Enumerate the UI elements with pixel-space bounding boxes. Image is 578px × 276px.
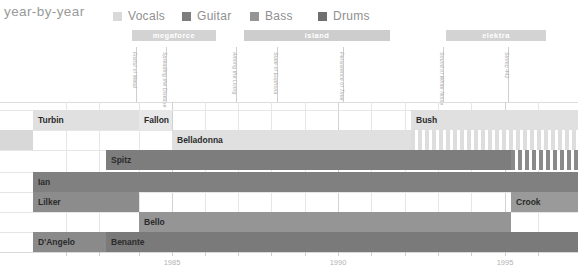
album-label: Fistful of Metal xyxy=(128,52,138,98)
band-member-name: Crook xyxy=(516,197,541,207)
axis-tick xyxy=(271,252,272,256)
band-member-name: Belladonna xyxy=(177,135,223,145)
axis-tick xyxy=(505,252,506,256)
album-title: State of Euphoria xyxy=(273,52,279,98)
axis-tick xyxy=(66,252,67,256)
timeline-bar[interactable]: Bello xyxy=(139,212,511,232)
axis-tick xyxy=(371,252,372,256)
legend-label-bass: Bass xyxy=(265,9,293,23)
album-label: State of Euphoria xyxy=(269,52,279,98)
band-member-name: Bello xyxy=(144,217,165,227)
timeline-bar[interactable]: Bush xyxy=(411,110,578,130)
axis-tick xyxy=(205,252,206,256)
timeline-bar[interactable]: Benante xyxy=(106,232,578,252)
legend-swatch-vocals xyxy=(113,12,122,21)
album-title: Sound of White Noise xyxy=(439,52,445,98)
record-label-name: elektra xyxy=(482,31,510,40)
album-title: Among the Living xyxy=(232,52,238,98)
album-label: Persistence of Time xyxy=(335,52,345,98)
album-label: Spreading the Disease xyxy=(158,52,168,98)
axis-tick xyxy=(405,252,406,256)
legend-item-guitar[interactable]: Guitar xyxy=(182,6,231,20)
album-title: Persistence of Time xyxy=(339,52,345,98)
axis-year-label: 1990 xyxy=(318,258,358,267)
album-title: Spreading the Disease xyxy=(162,52,168,98)
band-member-name: Turbin xyxy=(38,115,64,125)
timeline-bar[interactable] xyxy=(0,130,33,150)
chart-title: year-by-year xyxy=(4,4,85,19)
record-label-name: megaforce xyxy=(153,31,195,40)
plot-top-border xyxy=(0,102,578,103)
album-title: Stomp 442 xyxy=(504,52,510,98)
axis-tick xyxy=(438,252,439,256)
legend-item-bass[interactable]: Bass xyxy=(250,6,293,20)
timeline-bar[interactable] xyxy=(511,150,578,170)
timeline-bar[interactable]: Crook xyxy=(511,192,578,212)
legend-item-vocals[interactable]: Vocals xyxy=(113,6,165,20)
timeline-bar[interactable]: Belladonna xyxy=(172,130,411,150)
chart-legend: year-by-year Vocals Guitar Bass Drums xyxy=(0,0,578,24)
band-member-name: Spitz xyxy=(111,155,131,165)
album-label: Among the Living xyxy=(228,52,238,98)
year-by-year-timeline-chart: year-by-year Vocals Guitar Bass Drums me… xyxy=(0,0,578,276)
band-member-name: Benante xyxy=(111,237,145,247)
legend-label-guitar: Guitar xyxy=(197,9,231,23)
legend-label-drums: Drums xyxy=(333,9,370,23)
timeline-bar[interactable]: Spitz xyxy=(106,150,511,170)
album-title: Fistful of Metal xyxy=(132,52,138,98)
band-member-name: Ian xyxy=(38,177,50,187)
record-label-name: island xyxy=(305,31,330,40)
album-label: Stomp 442 xyxy=(500,52,510,98)
axis-tick xyxy=(139,252,140,256)
band-member-name: Bush xyxy=(416,115,437,125)
album-label: Sound of White Noise xyxy=(435,52,445,98)
axis-tick xyxy=(172,252,173,256)
axis-tick xyxy=(338,252,339,256)
axis-year-label: 1985 xyxy=(152,258,192,267)
timeline-bar[interactable]: Lilker xyxy=(33,192,139,212)
timeline-plot-area: TurbinFallonBushBelladonnaSpitzIanLilker… xyxy=(0,102,578,252)
axis-line xyxy=(0,252,578,253)
record-label-band: elektra xyxy=(446,30,546,41)
timeline-bar[interactable] xyxy=(411,130,578,150)
timeline-bar[interactable]: Turbin xyxy=(33,110,139,130)
timeline-bar[interactable]: Ian xyxy=(33,172,578,192)
legend-item-drums[interactable]: Drums xyxy=(318,6,370,20)
legend-swatch-bass xyxy=(250,12,259,21)
legend-label-vocals: Vocals xyxy=(128,9,165,23)
record-label-band: megaforce xyxy=(132,30,216,41)
band-member-name: Fallon xyxy=(144,115,169,125)
axis-tick xyxy=(471,252,472,256)
axis-tick xyxy=(305,252,306,256)
axis-tick xyxy=(99,252,100,256)
legend-swatch-drums xyxy=(318,12,327,21)
record-label-band: island xyxy=(244,30,390,41)
axis-tick xyxy=(238,252,239,256)
band-member-name: D'Angelo xyxy=(38,237,75,247)
axis-year-label: 1995 xyxy=(485,258,525,267)
axis-tick xyxy=(538,252,539,256)
band-member-name: Lilker xyxy=(38,197,61,207)
legend-swatch-guitar xyxy=(182,12,191,21)
timeline-bar[interactable]: D'Angelo xyxy=(33,232,106,252)
timeline-bar[interactable]: Fallon xyxy=(139,110,172,130)
